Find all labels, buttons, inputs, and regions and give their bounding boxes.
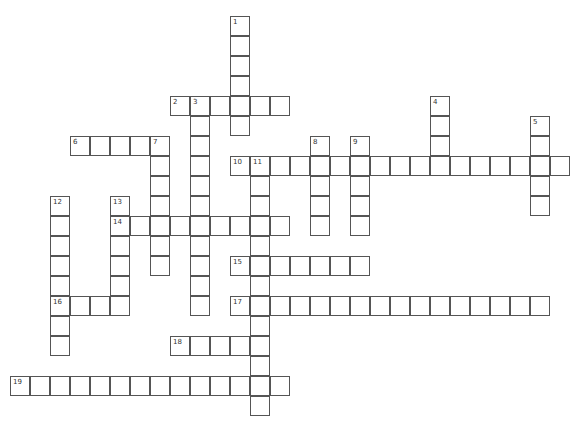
crossword-cell[interactable] <box>330 296 350 316</box>
crossword-cell[interactable] <box>150 156 170 176</box>
crossword-cell[interactable] <box>450 156 470 176</box>
crossword-cell[interactable] <box>230 36 250 56</box>
crossword-cell[interactable] <box>270 296 290 316</box>
crossword-cell[interactable]: 10 <box>230 156 250 176</box>
crossword-cell[interactable] <box>250 376 270 396</box>
crossword-cell[interactable] <box>210 96 230 116</box>
crossword-cell[interactable] <box>410 296 430 316</box>
crossword-cell[interactable] <box>250 296 270 316</box>
crossword-cell[interactable] <box>50 216 70 236</box>
crossword-cell[interactable] <box>290 156 310 176</box>
crossword-cell[interactable] <box>450 296 470 316</box>
crossword-cell[interactable] <box>350 256 370 276</box>
crossword-cell[interactable] <box>210 376 230 396</box>
crossword-cell[interactable] <box>250 176 270 196</box>
crossword-cell[interactable] <box>230 336 250 356</box>
crossword-cell[interactable] <box>250 256 270 276</box>
crossword-cell[interactable] <box>350 156 370 176</box>
crossword-cell[interactable] <box>50 236 70 256</box>
crossword-cell[interactable] <box>250 96 270 116</box>
crossword-cell[interactable] <box>410 156 430 176</box>
crossword-cell[interactable] <box>230 116 250 136</box>
crossword-cell[interactable] <box>250 216 270 236</box>
crossword-cell[interactable] <box>110 276 130 296</box>
crossword-cell[interactable] <box>190 256 210 276</box>
crossword-cell[interactable] <box>250 276 270 296</box>
crossword-cell[interactable] <box>270 216 290 236</box>
crossword-cell[interactable] <box>230 76 250 96</box>
crossword-cell[interactable] <box>90 296 110 316</box>
crossword-cell[interactable] <box>530 156 550 176</box>
crossword-cell[interactable] <box>530 296 550 316</box>
crossword-cell[interactable] <box>110 256 130 276</box>
crossword-cell[interactable] <box>150 376 170 396</box>
crossword-cell[interactable] <box>150 236 170 256</box>
crossword-cell[interactable] <box>190 376 210 396</box>
crossword-cell[interactable] <box>310 256 330 276</box>
crossword-cell[interactable]: 18 <box>170 336 190 356</box>
crossword-cell[interactable] <box>110 376 130 396</box>
crossword-cell[interactable]: 19 <box>10 376 30 396</box>
crossword-cell[interactable] <box>310 216 330 236</box>
crossword-cell[interactable]: 5 <box>530 116 550 136</box>
crossword-cell[interactable] <box>90 136 110 156</box>
crossword-cell[interactable] <box>50 276 70 296</box>
crossword-cell[interactable] <box>370 296 390 316</box>
crossword-cell[interactable]: 2 <box>170 96 190 116</box>
crossword-cell[interactable] <box>250 396 270 416</box>
crossword-cell[interactable] <box>290 256 310 276</box>
crossword-cell[interactable] <box>190 116 210 136</box>
crossword-cell[interactable] <box>270 256 290 276</box>
crossword-cell[interactable]: 17 <box>230 296 250 316</box>
crossword-cell[interactable] <box>430 136 450 156</box>
crossword-cell[interactable] <box>190 236 210 256</box>
crossword-cell[interactable] <box>190 276 210 296</box>
crossword-cell[interactable] <box>110 296 130 316</box>
crossword-cell[interactable]: 8 <box>310 136 330 156</box>
crossword-cell[interactable] <box>390 156 410 176</box>
crossword-cell[interactable]: 6 <box>70 136 90 156</box>
crossword-cell[interactable] <box>370 156 390 176</box>
crossword-cell[interactable] <box>190 156 210 176</box>
crossword-cell[interactable] <box>350 196 370 216</box>
crossword-cell[interactable] <box>230 96 250 116</box>
crossword-cell[interactable] <box>210 336 230 356</box>
crossword-cell[interactable]: 16 <box>50 296 70 316</box>
crossword-cell[interactable] <box>50 376 70 396</box>
crossword-cell[interactable] <box>190 196 210 216</box>
crossword-cell[interactable]: 9 <box>350 136 370 156</box>
crossword-cell[interactable] <box>350 176 370 196</box>
crossword-cell[interactable] <box>150 216 170 236</box>
crossword-cell[interactable] <box>310 156 330 176</box>
crossword-cell[interactable]: 13 <box>110 196 130 216</box>
crossword-cell[interactable] <box>530 176 550 196</box>
crossword-cell[interactable]: 12 <box>50 196 70 216</box>
crossword-cell[interactable] <box>150 196 170 216</box>
crossword-cell[interactable] <box>230 216 250 236</box>
crossword-cell[interactable] <box>330 156 350 176</box>
crossword-cell[interactable] <box>250 236 270 256</box>
crossword-cell[interactable] <box>230 376 250 396</box>
crossword-cell[interactable] <box>230 56 250 76</box>
crossword-cell[interactable] <box>210 216 230 236</box>
crossword-cell[interactable] <box>250 336 270 356</box>
crossword-cell[interactable] <box>190 136 210 156</box>
crossword-cell[interactable] <box>310 196 330 216</box>
crossword-cell[interactable] <box>470 156 490 176</box>
crossword-cell[interactable] <box>190 216 210 236</box>
crossword-cell[interactable] <box>190 176 210 196</box>
crossword-cell[interactable]: 1 <box>230 16 250 36</box>
crossword-cell[interactable] <box>150 176 170 196</box>
crossword-cell[interactable]: 11 <box>250 156 270 176</box>
crossword-cell[interactable] <box>50 256 70 276</box>
crossword-cell[interactable] <box>190 336 210 356</box>
crossword-cell[interactable]: 7 <box>150 136 170 156</box>
crossword-cell[interactable] <box>170 376 190 396</box>
crossword-cell[interactable] <box>130 216 150 236</box>
crossword-cell[interactable] <box>250 316 270 336</box>
crossword-cell[interactable] <box>130 136 150 156</box>
crossword-cell[interactable] <box>350 296 370 316</box>
crossword-cell[interactable] <box>310 176 330 196</box>
crossword-cell[interactable] <box>270 376 290 396</box>
crossword-cell[interactable] <box>190 296 210 316</box>
